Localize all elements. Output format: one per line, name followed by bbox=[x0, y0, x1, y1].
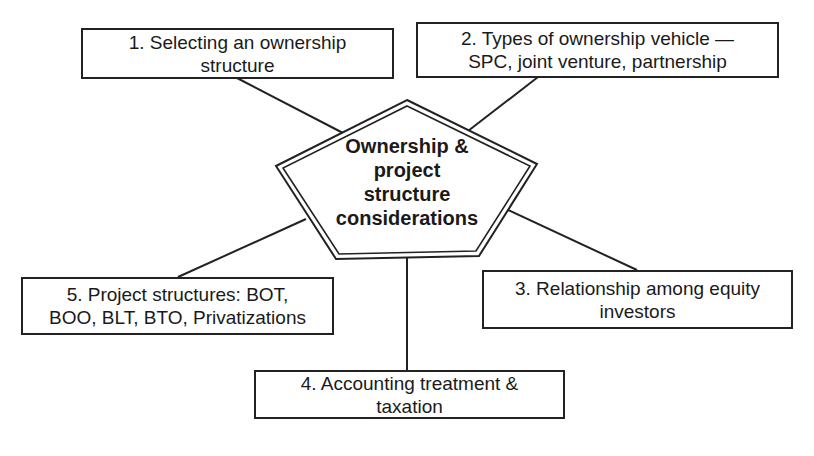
node-3-line-2: investors bbox=[515, 300, 760, 323]
connector-node-2 bbox=[468, 77, 538, 131]
center-line-3: structure bbox=[300, 182, 514, 206]
node-5-line-2: BOO, BLT, BTO, Privatizations bbox=[49, 306, 306, 329]
connector-node-1 bbox=[237, 78, 343, 133]
node-types-of-ownership-vehicle: 2. Types of ownership vehicle — SPC, joi… bbox=[416, 22, 779, 78]
node-5-line-1: 5. Project structures: BOT, bbox=[49, 283, 306, 306]
node-3-line-1: 3. Relationship among equity bbox=[515, 277, 760, 300]
node-1-line-2: structure bbox=[129, 54, 347, 77]
connector-node-5 bbox=[178, 219, 306, 277]
node-accounting-treatment-taxation: 4. Accounting treatment & taxation bbox=[254, 370, 565, 419]
node-4-line-1: 4. Accounting treatment & bbox=[301, 372, 519, 395]
node-2-line-1: 2. Types of ownership vehicle — bbox=[461, 27, 734, 50]
node-4-line-2: taxation bbox=[301, 395, 519, 418]
node-relationship-among-equity-investors: 3. Relationship among equity investors bbox=[482, 270, 793, 329]
center-line-1: Ownership & bbox=[300, 134, 514, 158]
connector-node-3 bbox=[508, 210, 637, 270]
center-line-4: considerations bbox=[300, 206, 514, 230]
center-line-2: project bbox=[300, 158, 514, 182]
node-2-line-2: SPC, joint venture, partnership bbox=[461, 50, 734, 73]
node-1-line-1: 1. Selecting an ownership bbox=[129, 31, 347, 54]
node-selecting-ownership-structure: 1. Selecting an ownership structure bbox=[81, 28, 394, 79]
node-project-structures: 5. Project structures: BOT, BOO, BLT, BT… bbox=[21, 277, 334, 335]
center-topic-label: Ownership & project structure considerat… bbox=[300, 134, 514, 230]
